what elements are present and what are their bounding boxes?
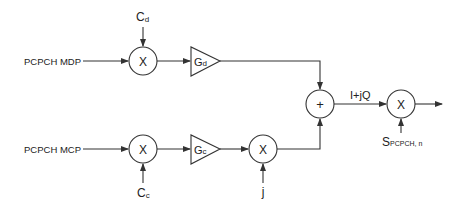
svg-text:SPCPCH, n: SPCPCH, n	[382, 135, 422, 149]
svg-text:Cd: Cd	[136, 10, 149, 24]
j-label: j	[261, 185, 265, 199]
pcpch-block-diagram: PCPCH MDP Cd X Gd PCPCH MCP X Cc Gc X j …	[0, 0, 465, 208]
scrambling-code-label: SPCPCH, n	[382, 135, 422, 149]
input-label-mcp: PCPCH MCP	[24, 144, 81, 155]
svg-text:Cc: Cc	[137, 186, 150, 200]
multiplier-lower-symbol: X	[139, 143, 147, 157]
code-label-cc: Cc	[137, 186, 150, 200]
input-label-mdp: PCPCH MDP	[24, 56, 81, 67]
arrow-jmult-to-sum	[277, 119, 320, 149]
multiplier-upper-symbol: X	[139, 55, 147, 69]
arrow-gd-to-sum	[220, 61, 320, 89]
summer-symbol: +	[316, 97, 324, 112]
code-label-cd: Cd	[136, 10, 149, 24]
iq-label: I+jQ	[350, 89, 371, 101]
multiplier-j-symbol: X	[259, 143, 267, 157]
multiplier-scramble-symbol: X	[397, 98, 405, 112]
